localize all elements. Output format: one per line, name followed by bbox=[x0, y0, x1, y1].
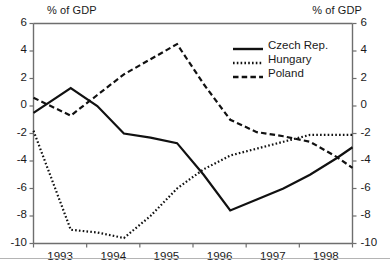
legend-label: Czech Rep. bbox=[268, 38, 328, 52]
y-tick-label-right: -8 bbox=[361, 208, 387, 220]
x-tick-label: 1993 bbox=[33, 250, 87, 262]
y-tick-label-right: -6 bbox=[361, 181, 387, 193]
y-tick-label-left: -4 bbox=[1, 153, 27, 165]
x-tick-label: 1994 bbox=[86, 250, 140, 262]
legend-swatch-icon bbox=[232, 40, 264, 50]
y-tick-label-left: -10 bbox=[1, 236, 27, 248]
y-tick-label-left: -6 bbox=[1, 181, 27, 193]
legend-swatch-icon bbox=[232, 68, 264, 78]
y-tick-label-left: -8 bbox=[1, 208, 27, 220]
y-tick-label-left: -2 bbox=[1, 126, 27, 138]
y-tick-label-right: -4 bbox=[361, 153, 387, 165]
series-line-hungary bbox=[34, 131, 353, 238]
legend-item-czech-rep[interactable]: Czech Rep. bbox=[232, 38, 358, 52]
footer-note bbox=[2, 262, 390, 271]
y-tick-label-left: 0 bbox=[1, 98, 27, 110]
legend-swatch-icon bbox=[232, 54, 264, 64]
y-tick-label-right: 4 bbox=[361, 43, 387, 55]
chart-legend: Czech Rep.HungaryPoland bbox=[232, 38, 358, 80]
chart-figure: % of GDP % of GDP 6420-2-4-6-8-10 6420-2… bbox=[0, 0, 390, 271]
x-tick-label: 1997 bbox=[246, 250, 300, 262]
legend-label: Hungary bbox=[268, 52, 311, 66]
y-tick-label-right: -2 bbox=[361, 126, 387, 138]
y-tick-label-right: 0 bbox=[361, 98, 387, 110]
y-tick-label-left: 6 bbox=[1, 16, 27, 28]
y-tick-label-left: 2 bbox=[1, 71, 27, 83]
legend-label: Poland bbox=[268, 66, 304, 80]
y-tick-label-right: 6 bbox=[361, 16, 387, 28]
legend-item-hungary[interactable]: Hungary bbox=[232, 52, 358, 66]
y-tick-label-right: 2 bbox=[361, 71, 387, 83]
x-tick-label: 1998 bbox=[299, 250, 353, 262]
x-tick-label: 1996 bbox=[193, 250, 247, 262]
footer-divider bbox=[0, 258, 390, 259]
x-tick-label: 1995 bbox=[139, 250, 193, 262]
y-tick-label-left: 4 bbox=[1, 43, 27, 55]
y-tick-label-right: -10 bbox=[361, 236, 387, 248]
legend-item-poland[interactable]: Poland bbox=[232, 66, 358, 80]
